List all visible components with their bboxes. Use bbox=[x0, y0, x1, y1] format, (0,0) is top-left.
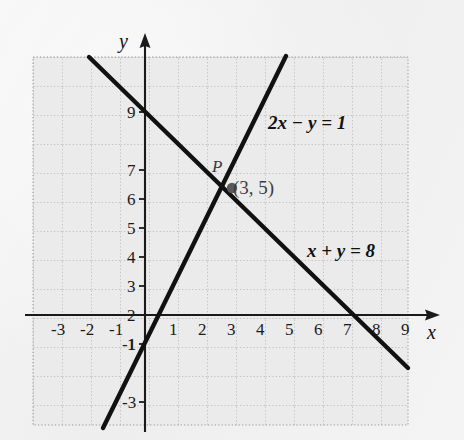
intersection-point-coordinates: (3, 5) bbox=[233, 178, 274, 197]
x-tick-label-9: 9 bbox=[401, 321, 410, 338]
plotted-lines bbox=[0, 0, 464, 440]
y-tick-label--1: -1 bbox=[122, 336, 136, 353]
y-tick-label-9: 9 bbox=[127, 104, 136, 121]
y-axis-label: y bbox=[119, 31, 128, 51]
x-tick-label-6: 6 bbox=[314, 321, 323, 338]
y-tick-label-2: 2 bbox=[127, 307, 136, 324]
equation-label-shallow-line: x + y = 8 bbox=[307, 241, 375, 260]
equation-label-steep-line: 2x − y = 1 bbox=[268, 113, 346, 132]
x-tick-label-3: 3 bbox=[227, 321, 236, 338]
x-tick-label-7: 7 bbox=[343, 321, 352, 338]
y-tick-label-7: 7 bbox=[127, 162, 136, 179]
x-tick-label-5: 5 bbox=[285, 321, 294, 338]
y-tick-label--3: -3 bbox=[122, 394, 136, 411]
y-tick-label-6: 6 bbox=[127, 191, 136, 208]
x-tick-label-2: 2 bbox=[198, 321, 207, 338]
x-axis-label: x bbox=[427, 322, 436, 342]
y-tick-label-5: 5 bbox=[127, 220, 136, 237]
y-tick-label-3: 3 bbox=[127, 278, 136, 295]
graph-figure: -3 -2 -1 1 2 3 4 5 6 7 8 9 9 7 6 5 4 3 2… bbox=[0, 0, 464, 440]
x-tick-label-8: 8 bbox=[372, 321, 381, 338]
x-tick-label--2: -2 bbox=[80, 321, 94, 338]
intersection-point-label: P bbox=[212, 158, 222, 175]
x-tick-label-1: 1 bbox=[169, 321, 178, 338]
x-tick-label--3: -3 bbox=[51, 321, 65, 338]
line-x-plus-y-equals-8 bbox=[89, 57, 408, 368]
y-tick-label-4: 4 bbox=[127, 249, 136, 266]
x-tick-label-4: 4 bbox=[256, 321, 265, 338]
